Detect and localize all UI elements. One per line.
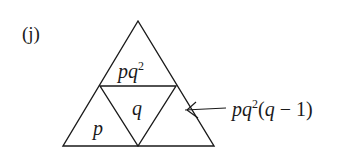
center-region-label: q (132, 97, 142, 120)
outer-triangle (63, 21, 214, 146)
triangle-diagram: (j) pq2 q p pq2(q − 1) (0, 0, 348, 154)
arrow-icon (185, 102, 226, 118)
top-region-label: pq2 (116, 59, 144, 83)
right-region-label: pq2(q − 1) (230, 97, 313, 121)
left-region-label: p (91, 117, 103, 140)
panel-label: (j) (22, 23, 40, 45)
